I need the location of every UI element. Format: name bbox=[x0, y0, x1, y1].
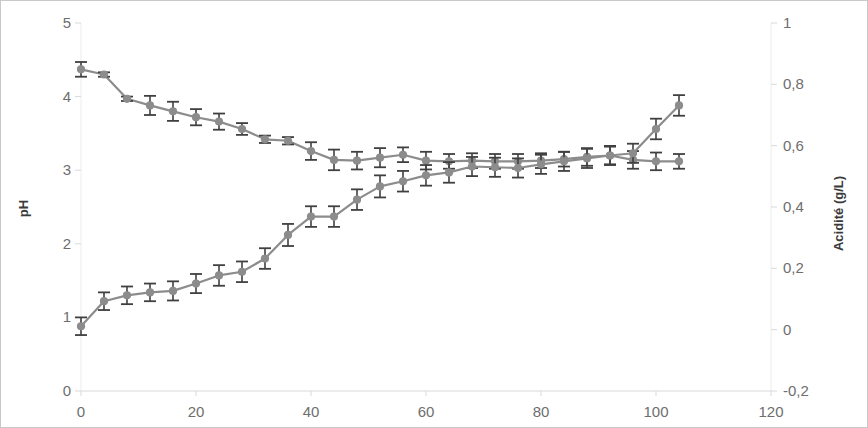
y-left-tick-label-4: 4 bbox=[35, 89, 71, 104]
y-left-tick-label-2: 2 bbox=[35, 236, 71, 251]
series-1 bbox=[75, 62, 685, 170]
y-right-tick-label-4: 0,6 bbox=[783, 138, 827, 153]
chart-frame: 012345-0,200,20,40,60,81020406080100120p… bbox=[0, 0, 868, 428]
y-right-tick-label-2: 0,2 bbox=[783, 260, 827, 275]
x-tick-label-5: 100 bbox=[632, 404, 680, 419]
chart-plot-area bbox=[1, 1, 868, 428]
x-tick-label-3: 60 bbox=[402, 404, 450, 419]
y-right-tick-label-0: -0,2 bbox=[783, 383, 827, 398]
y-right-tick-label-3: 0,4 bbox=[783, 199, 827, 214]
y-left-tick-label-0: 0 bbox=[35, 383, 71, 398]
x-tick-label-6: 120 bbox=[747, 404, 795, 419]
x-tick-label-1: 20 bbox=[172, 404, 220, 419]
x-tick-label-2: 40 bbox=[287, 404, 335, 419]
y-right-tick-label-1: 0 bbox=[783, 322, 827, 337]
x-tick-label-0: 0 bbox=[57, 404, 105, 419]
x-tick-label-4: 80 bbox=[517, 404, 565, 419]
y-left-axis-title: pH bbox=[16, 200, 31, 217]
y-right-tick-label-6: 1 bbox=[783, 15, 827, 30]
y-right-tick-label-5: 0,8 bbox=[783, 76, 827, 91]
y-right-axis-title: Acidité (g/L) bbox=[831, 176, 846, 251]
y-left-tick-label-1: 1 bbox=[35, 309, 71, 324]
y-left-tick-label-5: 5 bbox=[35, 15, 71, 30]
y-left-tick-label-3: 3 bbox=[35, 162, 71, 177]
series-2 bbox=[75, 95, 685, 335]
